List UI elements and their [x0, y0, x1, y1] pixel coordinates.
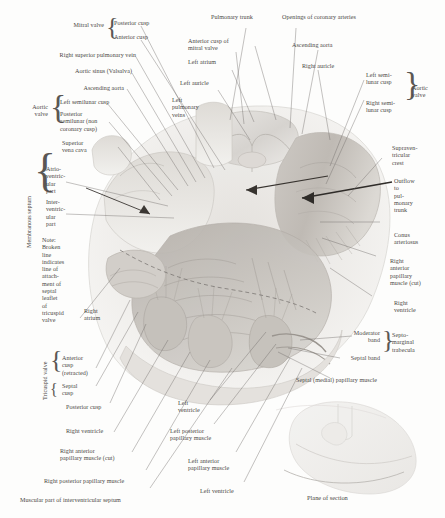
- label-left-posterior-papillary: Left posterior papillary muscle: [170, 428, 244, 443]
- label-left-anterior-papillary: Left anterior papillary muscle: [188, 458, 260, 473]
- label-left-atrium-top: Left atrium: [188, 59, 242, 66]
- label-septal-medial-papillary-muscle: Septal (medial) papillary muscle: [296, 377, 444, 384]
- label-supraventricular-crest: Supraven- tricular crest: [392, 145, 442, 167]
- label-posterior-cusp: Posterior cusp: [114, 20, 184, 27]
- label-septal-cusp: Septal cusp: [62, 383, 106, 398]
- label-conus-arteriosus: Conus arteriosus: [394, 232, 442, 247]
- label-muscular-part-ivs: Muscular part of interventricular septum: [20, 497, 190, 504]
- label-left-semilunar-cusp-left: Left semilunar cusp: [60, 99, 138, 106]
- label-mitral-valve: Mitral valve: [34, 22, 104, 29]
- label-right-posterior-papillary: Right posterior papillary muscle: [44, 478, 176, 485]
- inset-heart-diagram: [276, 402, 416, 494]
- label-anterior-cusp-retracted: Anterior cusp (retracted): [62, 355, 114, 377]
- label-superior-vena-cava: Superior vena cava: [62, 140, 114, 155]
- label-right-auricle: Right auricle: [302, 63, 358, 70]
- label-right-ventricle-right: Right ventricle: [394, 300, 442, 315]
- label-right-ventricle-bottom: Right ventricle: [66, 428, 146, 435]
- label-outflow-to-pulmonary-trunk: Outflow to pul- monary trunk: [394, 178, 442, 214]
- label-right-semilunar-cusp: Right semi- lunar cusp: [366, 100, 416, 115]
- label-membranous-septum: Membranous septum: [26, 196, 33, 248]
- anatomical-plate: Mitral valve { Posterior cusp Anterior c…: [0, 0, 445, 518]
- label-septal-band: Septal band: [330, 355, 380, 362]
- label-ascending-aorta-right: Ascending aorta: [292, 42, 362, 49]
- label-tricuspid-valve: Tricuspid valve: [42, 361, 49, 400]
- brace-tricuspid-septal: {: [50, 382, 58, 398]
- label-right-atrium: Right atrium: [84, 308, 120, 323]
- label-right-anterior-papillary-cut-right: Right anterior papillary muscle (cut): [390, 258, 442, 287]
- label-aortic-sinus: Aortic sinus (Valsalva): [34, 68, 132, 75]
- label-openings-of-coronary-arteries: Openings of coronary arteries: [282, 14, 406, 21]
- label-left-auricle: Left auricle: [180, 80, 230, 87]
- label-aortic-valve-left: Aortic valve: [18, 104, 48, 119]
- label-posterior-semilunar-cusp: Posterior semilunar (non coronary cusp): [60, 111, 124, 133]
- label-interventricular-part: Inter- ventric- ular part: [46, 199, 80, 228]
- label-left-ventricle-lower: Left ventricle: [200, 488, 262, 495]
- label-left-pulmonary-veins: Left pulmonary veins: [172, 97, 220, 119]
- label-note: Note: Broken line indicates line of atta…: [42, 237, 78, 325]
- label-anterior-cusp: Anterior cusp: [114, 34, 184, 41]
- label-plane-of-section: Plane of section: [307, 494, 348, 501]
- label-posterior-cusp-tricuspid: Posterior cusp: [66, 404, 128, 411]
- label-right-superior-pulmonary-vein: Right superior pulmonary vein: [24, 52, 136, 59]
- label-anterior-cusp-of-mitral-valve: Anterior cusp of mitral valve: [188, 38, 256, 53]
- label-atrioventricular-part: Atrio- ventric- ular part: [46, 166, 80, 195]
- label-aortic-valve-right: Aortic valve: [412, 85, 444, 100]
- label-left-ventricle-upper: Left ventricle: [178, 400, 222, 415]
- label-right-anterior-papillary-cut-bottom: Right anterior papillary muscle (cut): [60, 448, 156, 463]
- brace-tricuspid-anterior: {: [50, 352, 62, 368]
- label-moderator-band: Moderator band: [328, 330, 380, 345]
- label-pulmonary-trunk: Pulmonary trunk: [211, 14, 283, 21]
- label-septomarginal-trabecula: Septo- marginal trabecula: [392, 332, 442, 354]
